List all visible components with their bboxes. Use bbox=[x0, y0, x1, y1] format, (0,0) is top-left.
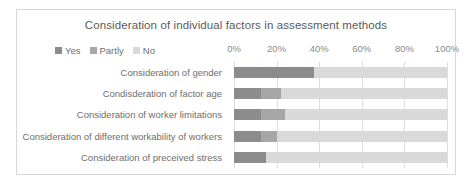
category-label: Consideration of worker limitations bbox=[21, 109, 229, 120]
bar-segment-no[interactable] bbox=[266, 152, 447, 163]
bar-segment-no[interactable] bbox=[285, 109, 447, 120]
bar-row bbox=[234, 152, 447, 163]
bar-track bbox=[234, 109, 447, 120]
x-tick-40: 40% bbox=[310, 43, 329, 54]
bar-row bbox=[234, 88, 447, 99]
x-axis-tick-labels: 0%20%40%60%80%100% bbox=[234, 43, 447, 57]
bar-segment-yes[interactable] bbox=[234, 131, 261, 142]
bar-segment-no[interactable] bbox=[314, 67, 447, 78]
legend-item-partly[interactable]: Partly bbox=[90, 45, 124, 56]
x-tick-20: 20% bbox=[267, 43, 286, 54]
legend-swatch-no bbox=[133, 47, 140, 54]
category-label: Condisderation of factor age bbox=[21, 88, 229, 99]
bar-track bbox=[234, 88, 447, 99]
bar-segment-partly[interactable] bbox=[261, 131, 277, 142]
bar-segment-partly[interactable] bbox=[261, 109, 285, 120]
bar-rows bbox=[234, 62, 447, 168]
legend-label-yes: Yes bbox=[65, 45, 81, 56]
x-tick-0: 0% bbox=[227, 43, 241, 54]
chart-card: Consideration of individual factors in a… bbox=[16, 9, 456, 175]
legend-item-no[interactable]: No bbox=[133, 45, 155, 56]
bar-row bbox=[234, 131, 447, 142]
category-label: Consideration of different workability o… bbox=[21, 131, 229, 142]
legend-item-yes[interactable]: Yes bbox=[55, 45, 81, 56]
bar-segment-yes[interactable] bbox=[234, 152, 266, 163]
bar-row bbox=[234, 67, 447, 78]
legend-label-partly: Partly bbox=[100, 45, 124, 56]
x-tick-80: 80% bbox=[395, 43, 414, 54]
bar-track bbox=[234, 152, 447, 163]
y-axis-category-labels: Consideration of genderCondisderation of… bbox=[21, 62, 229, 168]
x-tick-100: 100% bbox=[435, 43, 459, 54]
chart-legend: Yes Partly No bbox=[55, 45, 155, 56]
legend-swatch-partly bbox=[90, 47, 97, 54]
bar-row bbox=[234, 109, 447, 120]
bar-segment-yes[interactable] bbox=[234, 88, 261, 99]
category-label: Consideration of preceived stress bbox=[21, 152, 229, 163]
bar-track bbox=[234, 67, 447, 78]
bar-segment-partly[interactable] bbox=[261, 88, 281, 99]
bar-segment-yes[interactable] bbox=[234, 67, 314, 78]
bar-track bbox=[234, 131, 447, 142]
legend-swatch-yes bbox=[55, 47, 62, 54]
gridline bbox=[447, 62, 448, 168]
bar-segment-no[interactable] bbox=[281, 88, 447, 99]
plot-area bbox=[234, 62, 447, 168]
chart-title: Consideration of individual factors in a… bbox=[17, 19, 455, 31]
legend-label-no: No bbox=[143, 45, 155, 56]
category-label: Consideration of gender bbox=[21, 67, 229, 78]
bar-segment-yes[interactable] bbox=[234, 109, 261, 120]
x-tick-60: 60% bbox=[352, 43, 371, 54]
bar-segment-no[interactable] bbox=[277, 131, 447, 142]
